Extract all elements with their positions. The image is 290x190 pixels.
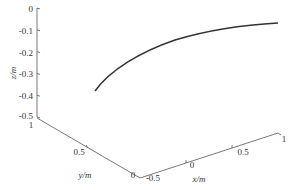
z-axis-label: z/m [8,66,18,80]
x-axis-label: x/m [192,174,206,184]
z-tick-0: 0 [29,4,34,14]
3d-line-chart: 0 -0.1 -0.2 -0.3 -0.4 -0.5 z/m 1 0.5 0 y… [0,0,290,190]
z-tick-1: -0.1 [19,26,33,36]
z-tick-2: -0.2 [19,48,33,58]
x-tick-0: 0 [190,160,195,170]
y-axis: 1 0.5 0 y/m [29,118,140,180]
z-tick-3: -0.3 [19,69,34,79]
y-axis-label: y/m [78,170,92,180]
y-tick-1: 1 [29,120,34,130]
y-tick-0: 0 [131,170,136,180]
y-tick-0.5: 0.5 [73,147,85,157]
x-tick-neg0.5: -0.5 [146,173,161,183]
trajectory-curve [95,23,278,91]
z-tick-4: -0.4 [19,91,34,101]
z-axis: 0 -0.1 -0.2 -0.3 -0.4 -0.5 z/m [8,4,40,121]
x-axis: -0.5 0 0.5 1 x/m [140,133,286,184]
x-tick-1: 1 [282,134,287,144]
x-tick-0.5: 0.5 [237,147,249,157]
